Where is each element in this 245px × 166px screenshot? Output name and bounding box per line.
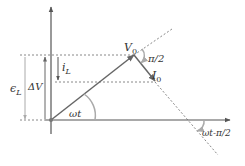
- label-il: iL: [62, 61, 71, 76]
- omega-t-angle-arc: [84, 94, 95, 120]
- origin-point: [49, 118, 53, 122]
- dotted-extension-upper: [134, 29, 172, 55]
- pi-over-2-angle-arc: [141, 49, 144, 63]
- label-omega-t-minus-pi2: ωt-π/2: [202, 128, 231, 138]
- label-v0: V0: [124, 41, 137, 56]
- label-delta-v: ΔV: [27, 81, 44, 92]
- dotted-extension-lower: [155, 82, 218, 155]
- label-omega-t: ωt: [69, 108, 82, 119]
- phasor-diagram: V0 π/2 I0 iL ϵL ΔV ωt ωt-π/2: [0, 0, 245, 166]
- label-i0: I0: [151, 69, 161, 84]
- label-emf-l: ϵL: [10, 82, 21, 97]
- label-pi-over-2: π/2: [147, 53, 164, 64]
